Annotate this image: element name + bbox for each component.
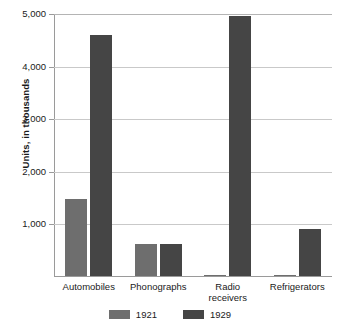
y-tick-mark <box>49 224 54 225</box>
category-label-radio-receivers: Radioreceivers <box>193 282 263 303</box>
plot-area: 5,0004,0003,0002,0001,000 AutomobilesPho… <box>54 14 332 277</box>
bar-1929-radio-receivers[interactable] <box>229 16 251 276</box>
legend-swatch-1921 <box>109 310 130 319</box>
y-tick-label: 4,000 <box>22 62 46 72</box>
y-tick-mark <box>49 14 54 15</box>
y-tick-label: 5,000 <box>22 9 46 19</box>
y-tick-mark <box>49 67 54 68</box>
category-label-refrigerators: Refrigerators <box>263 282 333 293</box>
y-tick-mark <box>49 119 54 120</box>
x-axis-line <box>54 276 332 277</box>
bar-1929-refrigerators[interactable] <box>299 229 321 276</box>
y-tick-mark <box>49 172 54 173</box>
chart-legend: 1921 1929 <box>0 310 340 320</box>
y-tick-label: 3,000 <box>22 114 46 124</box>
legend-label-1929: 1929 <box>210 310 231 320</box>
bar-1921-phonographs[interactable] <box>135 244 157 276</box>
y-tick-label: 1,000 <box>22 220 46 230</box>
legend-item-1929[interactable]: 1929 <box>183 310 231 320</box>
category-label-phonographs: Phonographs <box>124 282 194 293</box>
y-axis-line <box>54 14 55 277</box>
legend-label-1921: 1921 <box>136 310 157 320</box>
bar-chart: Units, in thousands 5,0004,0003,0002,000… <box>0 0 340 334</box>
bar-1929-phonographs[interactable] <box>160 244 182 276</box>
gridline <box>54 14 332 15</box>
bar-1929-automobiles[interactable] <box>90 35 112 276</box>
legend-swatch-1929 <box>183 310 204 319</box>
bar-1921-radio-receivers[interactable] <box>204 275 226 277</box>
legend-item-1921[interactable]: 1921 <box>109 310 157 320</box>
bar-1921-automobiles[interactable] <box>65 199 87 276</box>
category-label-automobiles: Automobiles <box>54 282 124 293</box>
y-tick-label: 2,000 <box>22 167 46 177</box>
bar-1921-refrigerators[interactable] <box>274 275 296 277</box>
